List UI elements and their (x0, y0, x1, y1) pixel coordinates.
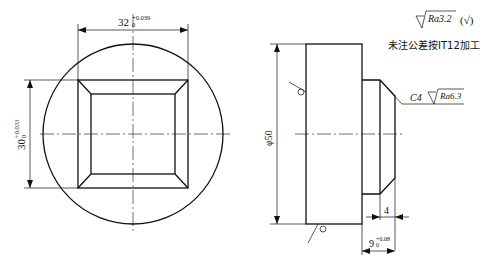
length-dim-lower: 0 (376, 242, 379, 248)
front-view: 32 +0.039 0 30 +0.033 0 (13, 14, 230, 234)
roughness-symbol-bottom (308, 224, 326, 243)
default-roughness-suffix: (√) (460, 14, 474, 27)
side-view: φ50 C4 Ra6.3 4 (263, 44, 464, 255)
chamfer-roughness: Ra6.3 (439, 91, 462, 101)
diameter-dim-value: φ50 (263, 130, 274, 146)
roughness-symbol-top (289, 82, 306, 95)
length-dim-value: 9 (369, 238, 374, 249)
chamfer-label: C4 (410, 92, 422, 103)
boss (362, 80, 395, 194)
width-dim-upper: +0.039 (132, 14, 150, 21)
tolerance-note: 未注公差按IT12加工 (388, 37, 480, 52)
length-dimension: 9 +0.08 0 (362, 224, 395, 255)
width-dim-value: 32 (118, 16, 129, 28)
chamfer-callout: C4 Ra6.3 (387, 88, 464, 104)
default-roughness-value: Ra3.2 (427, 13, 452, 24)
height-dim-lower: 0 (20, 135, 27, 138)
height-dim-value: 30 (15, 139, 27, 151)
width-dim-lower: 0 (132, 21, 135, 28)
default-roughness-note: Ra3.2 (√) (416, 11, 474, 28)
step-dim-value: 4 (384, 205, 389, 216)
height-dim-upper: +0.033 (13, 120, 20, 138)
